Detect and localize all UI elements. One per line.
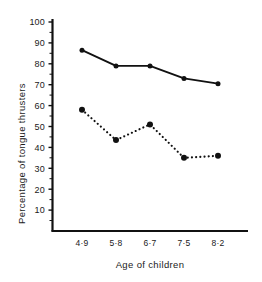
x-axis-title: Age of children — [116, 259, 185, 270]
y-axis-title: Percentage of tongue thrusters — [16, 83, 27, 224]
y-tick-label: 20 — [35, 185, 45, 195]
data-point-marker — [148, 63, 153, 68]
data-point-marker — [114, 63, 119, 68]
dotted-series-line — [82, 110, 218, 158]
x-tick-label: 8·2 — [212, 238, 225, 248]
data-point-marker — [79, 107, 85, 113]
data-point-marker — [113, 137, 119, 143]
y-tick-label: 50 — [35, 122, 45, 132]
y-tick-label: 100 — [29, 17, 45, 27]
chart-figure: Percentage of tongue thrusters — [0, 0, 262, 282]
x-tick-labels: 4·95·86·77·58·2 — [76, 238, 225, 248]
data-point-marker — [182, 76, 187, 81]
data-point-marker — [80, 48, 85, 53]
x-tick-label: 4·9 — [76, 238, 89, 248]
y-tick-labels: 100 90 80 70 60 50 40 30 20 10 — [29, 17, 45, 215]
y-tick-label: 10 — [35, 205, 45, 215]
line-chart-canvas: Percentage of tongue thrusters — [0, 0, 262, 282]
data-point-marker — [147, 121, 153, 127]
x-tick-label: 7·5 — [178, 238, 191, 248]
data-point-marker — [216, 81, 221, 86]
y-tick-label: 90 — [35, 38, 45, 48]
y-tick-label: 80 — [35, 59, 45, 69]
dotted-series-markers — [79, 107, 221, 161]
y-tick-label: 70 — [35, 80, 45, 90]
data-point-marker — [215, 153, 221, 159]
y-tick-label: 30 — [35, 164, 45, 174]
data-point-marker — [181, 155, 187, 161]
y-tick-label: 40 — [35, 143, 45, 153]
x-tick-label: 5·8 — [110, 238, 123, 248]
y-tick-label: 60 — [35, 101, 45, 111]
x-tick-label: 6·7 — [144, 238, 157, 248]
